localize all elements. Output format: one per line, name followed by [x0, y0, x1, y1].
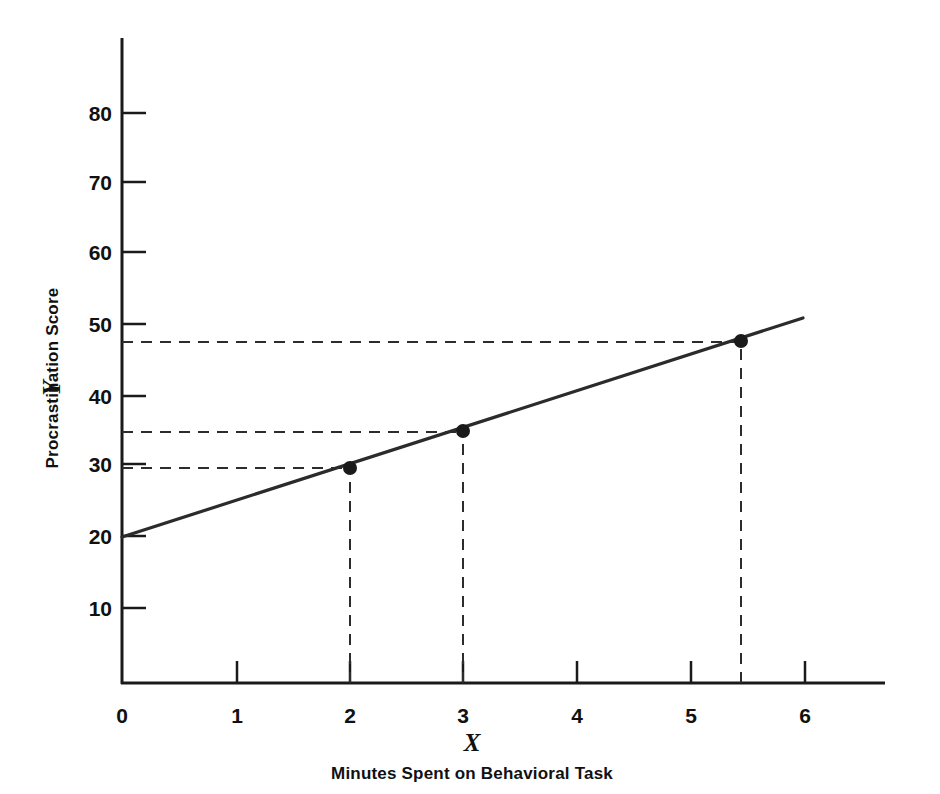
y-tick-label-60: 60 [89, 241, 112, 264]
data-point-marker-3[interactable] [734, 334, 748, 348]
x-tick-label-5: 5 [685, 704, 697, 727]
y-tick-label-70: 70 [89, 171, 112, 194]
y-tick-label-40: 40 [89, 385, 112, 408]
x-tick-label-2: 2 [344, 704, 356, 727]
x-tick-label-6: 6 [799, 704, 811, 727]
x-tick-label-4: 4 [571, 704, 583, 727]
x-axis-title: Minutes Spent on Behavioral Task [331, 764, 613, 783]
y-tick-label-80: 80 [89, 102, 112, 125]
x-tick-label-1: 1 [231, 704, 243, 727]
x-tick-label-3: 3 [457, 704, 469, 727]
x-axis-variable-label: X [463, 729, 482, 756]
figure-container: 10 20 30 40 50 60 70 80 0 1 2 3 4 5 6 [0, 0, 940, 794]
y-tick-label-10: 10 [89, 597, 112, 620]
y-tick-label-50: 50 [89, 313, 112, 336]
y-tick-label-20: 20 [89, 525, 112, 548]
data-point-marker-2[interactable] [456, 424, 470, 438]
y-tick-label-30: 30 [89, 453, 112, 476]
data-point-marker-1[interactable] [343, 461, 357, 475]
x-tick-label-0: 0 [116, 704, 128, 727]
scatter-regression-chart: 10 20 30 40 50 60 70 80 0 1 2 3 4 5 6 [0, 0, 940, 794]
y-axis-title: Procrastination Score [43, 288, 62, 469]
